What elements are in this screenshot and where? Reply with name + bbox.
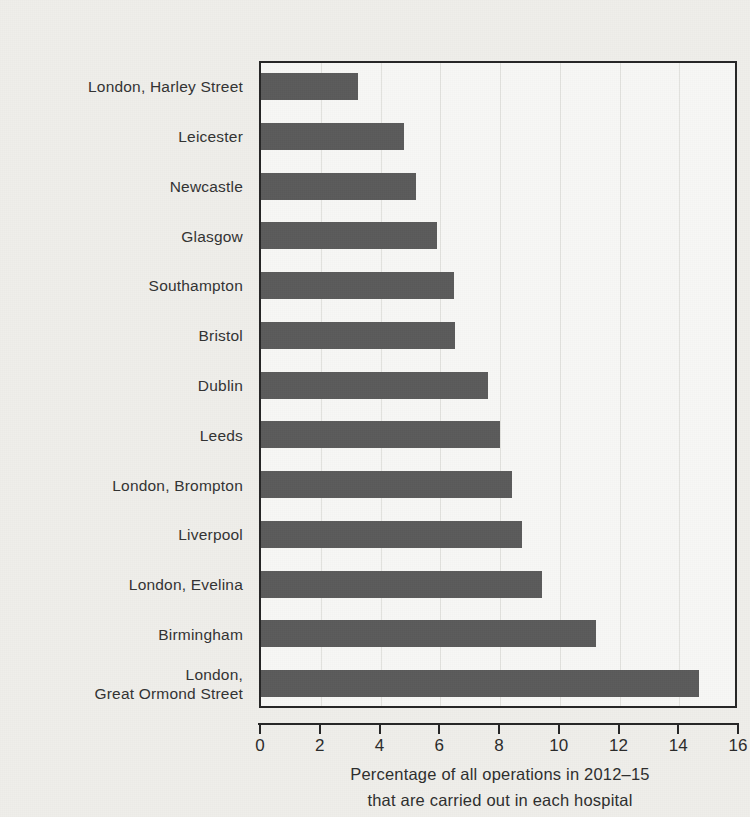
category-label-line: London, Evelina (32, 575, 243, 594)
category-label: Liverpool (32, 525, 251, 544)
x-tick-label: 14 (658, 736, 698, 756)
x-tick-mark (438, 723, 440, 734)
bar[interactable] (261, 521, 522, 548)
bar[interactable] (261, 222, 437, 249)
bar[interactable] (261, 421, 500, 448)
x-tick-mark (319, 723, 321, 734)
category-label: Leeds (32, 426, 251, 445)
category-label: Dublin (32, 376, 251, 395)
bar-row (261, 461, 735, 508)
bar[interactable] (261, 173, 416, 200)
x-axis: 0246810121416 (259, 708, 737, 709)
bar[interactable] (261, 272, 454, 299)
x-tick-mark (677, 723, 679, 734)
category-label-line: Leeds (32, 426, 243, 445)
bar-row (261, 262, 735, 309)
x-tick-mark (379, 723, 381, 734)
category-label: London, Evelina (32, 575, 251, 594)
x-tick-label: 4 (360, 736, 400, 756)
bars-layer (261, 63, 735, 706)
x-tick-mark (618, 723, 620, 734)
bar[interactable] (261, 372, 488, 399)
bar[interactable] (261, 123, 404, 150)
category-label-line: London, (32, 665, 243, 684)
x-tick-mark (259, 723, 261, 734)
category-label: Southampton (32, 276, 251, 295)
category-label-line: Newcastle (32, 177, 243, 196)
category-label: Newcastle (32, 177, 251, 196)
x-tick-label: 16 (718, 736, 750, 756)
plot-area (259, 61, 737, 708)
bar[interactable] (261, 322, 455, 349)
bar-row (261, 312, 735, 359)
category-label: London, Brompton (32, 476, 251, 495)
x-axis-caption-line: Percentage of all operations in 2012–15 (200, 761, 750, 787)
category-label-line: London, Harley Street (32, 77, 243, 96)
category-label: London, Harley Street (32, 77, 251, 96)
x-axis-caption-line: that are carried out in each hospital (200, 787, 750, 813)
bar[interactable] (261, 571, 542, 598)
category-label-line: Liverpool (32, 525, 243, 544)
category-label: Birmingham (32, 625, 251, 644)
bar-row (261, 511, 735, 558)
category-label: London,Great Ormond Street (32, 665, 251, 703)
category-axis-labels: London, Harley StreetLeicesterNewcastleG… (40, 61, 251, 708)
category-label-line: Great Ormond Street (32, 684, 243, 703)
category-label: Leicester (32, 127, 251, 146)
category-label-line: Bristol (32, 326, 243, 345)
bar-row (261, 411, 735, 458)
category-label-line: Birmingham (32, 625, 243, 644)
bar[interactable] (261, 73, 358, 100)
bar-row (261, 610, 735, 657)
x-tick-label: 0 (240, 736, 280, 756)
bar-row (261, 113, 735, 160)
bar-row (261, 212, 735, 259)
x-tick-label: 8 (479, 736, 519, 756)
category-label-line: London, Brompton (32, 476, 243, 495)
bar-row (261, 63, 735, 110)
bar[interactable] (261, 670, 699, 697)
horizontal-bar-chart: London, Harley StreetLeicesterNewcastleG… (40, 16, 750, 817)
x-tick-label: 6 (419, 736, 459, 756)
x-tick-mark (558, 723, 560, 734)
category-label-line: Leicester (32, 127, 243, 146)
x-tick-label: 12 (599, 736, 639, 756)
bar-row (261, 561, 735, 608)
x-tick-mark (737, 723, 739, 734)
category-label: Bristol (32, 326, 251, 345)
bar-row (261, 362, 735, 409)
bar[interactable] (261, 620, 596, 647)
x-axis-caption: Percentage of all operations in 2012–15t… (200, 761, 750, 813)
category-label: Glasgow (32, 227, 251, 246)
category-label-line: Glasgow (32, 227, 243, 246)
x-tick-label: 2 (300, 736, 340, 756)
category-label-line: Dublin (32, 376, 243, 395)
category-label-line: Southampton (32, 276, 243, 295)
bar[interactable] (261, 471, 512, 498)
bar-row (261, 660, 735, 707)
x-tick-label: 10 (539, 736, 579, 756)
bar-row (261, 163, 735, 210)
x-tick-mark (498, 723, 500, 734)
